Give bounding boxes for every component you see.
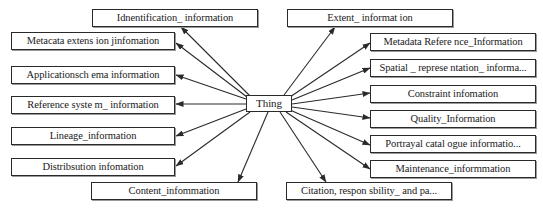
node-identification-information: Idnentification_ information [92, 9, 258, 27]
node-quality-information: Quality_Information [370, 110, 536, 128]
arrow-metadata-reference [290, 43, 370, 97]
arrow-application-schema [176, 75, 246, 99]
arrow-lineage [176, 109, 246, 136]
arrow-content [238, 112, 268, 182]
arrow-constraint [292, 93, 370, 104]
node-lineage-information: Lineage_information [11, 127, 175, 145]
node-constraint-information: Constraint infomation [370, 85, 536, 103]
node-metadata-reference-information: Metadata Refere nce_Information [370, 33, 536, 51]
node-spatial-representation-information: Spatial _ represe ntation_ informa... [370, 59, 536, 77]
arrow-maintenance [286, 112, 370, 169]
node-reference-system-information: Reference syste m_ information [11, 96, 175, 114]
center-node-thing: Thing [246, 95, 292, 112]
arrow-identification [181, 27, 250, 96]
arrow-citation [280, 112, 326, 182]
arrow-portrayal-catalogue [290, 110, 370, 145]
arrow-quality [292, 107, 370, 118]
arrow-metacata-extension [176, 43, 247, 97]
node-distribution-information: Distribsution infomation [11, 158, 175, 176]
arrow-extent [284, 27, 335, 95]
arrow-distribution [176, 112, 250, 166]
node-citation-responsibility: Citation, respon sbility_ and pa... [286, 182, 452, 200]
node-maintenance-information: Maintenance_informmation [370, 160, 536, 178]
arrow-spatial-representation [292, 68, 370, 100]
node-metadata-extension-information: Metacata extens ion jinfomation [11, 32, 175, 50]
node-content-information: Content_infommation [91, 182, 257, 200]
node-extent-information: Extent_ informat ion [287, 9, 453, 27]
metadata-class-diagram: Thing Idnentification_ information Metac… [0, 0, 543, 211]
node-portrayal-catalogue-information: Portrayal catal ogue informatio... [370, 135, 536, 153]
node-application-schema-information: Applicationsch ema information [11, 66, 175, 84]
